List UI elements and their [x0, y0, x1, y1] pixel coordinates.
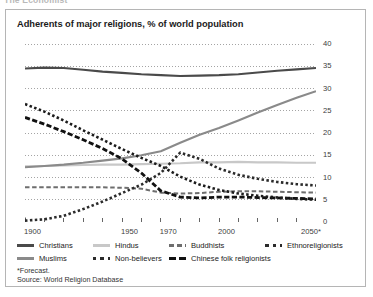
legend-key-dash-medium	[169, 244, 186, 247]
legend-key-solid-dark	[17, 244, 34, 247]
legend-key-dot-dark	[93, 257, 110, 260]
y-axis-tick-label: 5	[323, 195, 327, 204]
x-axis-tick-label: 1970	[160, 227, 177, 236]
y-axis-tick-label: 0	[323, 217, 327, 226]
chart-screenshot: The Economist Adherents of major religio…	[0, 0, 373, 297]
plot-area	[25, 44, 316, 222]
legend-item-buddhists[interactable]: Buddhists	[169, 239, 224, 252]
cutoff-publication-header: The Economist	[0, 0, 373, 9]
legend-key-dash-bold	[169, 257, 186, 260]
chart-title: Adherents of major religions, % of world…	[17, 19, 243, 29]
x-axis-tick-label: 2000	[218, 227, 235, 236]
legend-item-ethnoreligionists[interactable]: Ethnoreligionists	[265, 239, 343, 252]
legend-item-non-believers[interactable]: Non-believers	[93, 252, 162, 265]
y-axis-tick-label: 30	[323, 84, 331, 93]
y-axis-tick-label: 35	[323, 61, 331, 70]
legend-item-label: Hindus	[115, 241, 139, 250]
legend-row-top: ChristiansHindusBuddhistsEthnoreligionis…	[17, 239, 362, 252]
legend-item-hindus[interactable]: Hindus	[93, 239, 139, 252]
legend-item-chinese-folk-religionists[interactable]: Chinese folk religionists	[169, 252, 271, 265]
x-axis-tick-label: 2050*	[301, 227, 321, 236]
series-line-ethnoreligionists	[25, 104, 316, 200]
legend-item-muslims[interactable]: Muslims	[17, 252, 67, 265]
y-axis-tick-label: 25	[323, 106, 331, 115]
legend-item-label: Non-believers	[115, 254, 162, 263]
y-axis-tick-label: 15	[323, 150, 331, 159]
series-line-christians	[25, 68, 316, 76]
chart-legend: ChristiansHindusBuddhistsEthnoreligionis…	[17, 239, 362, 265]
legend-item-label: Ethnoreligionists	[287, 241, 343, 250]
chart-panel: Adherents of major religions, % of world…	[5, 9, 366, 287]
y-axis-tick-label: 20	[323, 128, 331, 137]
legend-key-solid-medium	[17, 257, 34, 260]
legend-item-label: Muslims	[39, 254, 67, 263]
line-chart-svg	[25, 44, 316, 222]
x-axis-tick-label: 1900	[24, 227, 41, 236]
footnote-forecast: *Forecast.	[17, 266, 50, 275]
series-line-buddhists	[25, 187, 316, 193]
legend-item-label: Chinese folk religionists	[191, 254, 271, 263]
legend-key-solid-light	[93, 244, 110, 247]
legend-key-dot-dark	[265, 244, 282, 247]
legend-item-label: Buddhists	[191, 241, 224, 250]
legend-row-bottom: MuslimsNon-believersChinese folk religio…	[17, 252, 362, 265]
series-line-muslims	[25, 91, 316, 167]
x-axis-tick-label: 1950	[121, 227, 138, 236]
y-axis-tick-label: 10	[323, 173, 331, 182]
legend-item-label: Christians	[39, 241, 73, 250]
footnote-source: Source: World Religion Database	[17, 275, 123, 284]
y-axis-tick-label: 40	[323, 39, 331, 48]
publication-name: The Economist	[4, 0, 68, 5]
legend-item-christians[interactable]: Christians	[17, 239, 73, 252]
